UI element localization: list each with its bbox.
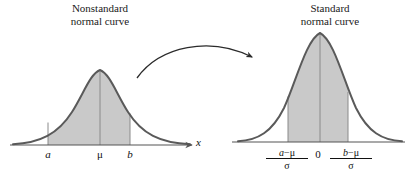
right-panel-title-line2: normal curve xyxy=(301,15,359,27)
numerator-mu-left: μ xyxy=(290,147,295,158)
standardizing-normal-curve-figure: Nonstandard normal curve Standard normal… xyxy=(0,0,405,182)
x-axis-label: x xyxy=(196,136,201,148)
right-panel-title-line1: Standard xyxy=(310,2,349,14)
transform-arrow-path xyxy=(137,46,252,78)
numerator-mu-right: μ xyxy=(354,147,359,158)
left-panel-title: Nonstandard normal curve xyxy=(40,2,160,28)
left-panel-title-line2: normal curve xyxy=(71,15,129,27)
tick-label-mu: μ xyxy=(90,148,110,160)
nonstandard-normal-plot xyxy=(10,70,192,145)
tick-label-zero: 0 xyxy=(310,148,326,160)
standard-normal-plot xyxy=(232,33,405,142)
shaded-area-a-to-b xyxy=(13,70,190,145)
transform-arrow xyxy=(137,46,252,78)
tick-label-a: a xyxy=(38,148,58,160)
tick-label-b-standardized: b−μ σ xyxy=(330,147,372,171)
fraction-numerator-left: a−μ xyxy=(266,147,308,159)
tick-label-b: b xyxy=(120,148,140,160)
right-panel-title: Standard normal curve xyxy=(270,2,390,28)
fraction-numerator-right: b−μ xyxy=(330,147,372,159)
tick-label-a-standardized: a−μ σ xyxy=(266,147,308,171)
fraction-denominator-left: σ xyxy=(266,159,308,171)
left-panel-title-line1: Nonstandard xyxy=(72,2,128,14)
fraction-denominator-right: σ xyxy=(330,159,372,171)
